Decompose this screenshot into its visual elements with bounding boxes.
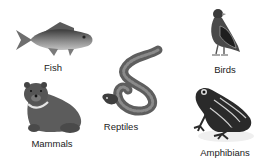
frog-icon [192,84,256,144]
amphibians-label: Amphibians [200,147,250,158]
birds-label: Birds [214,64,236,75]
bear-icon [20,82,84,134]
reptiles-label: Reptiles [104,121,138,132]
snake-icon [98,48,168,116]
mammals-label: Mammals [31,138,72,149]
bird-icon [206,8,242,58]
fish-icon [14,18,94,56]
fish-label: Fish [44,62,62,73]
